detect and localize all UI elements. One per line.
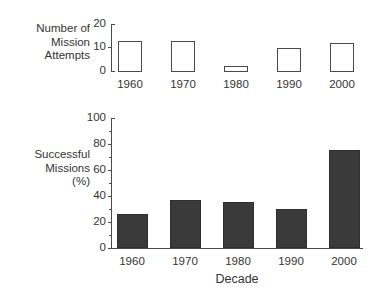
bottom-chart-x-axis-line bbox=[111, 248, 363, 249]
top-chart-bar-1970 bbox=[171, 41, 195, 72]
bottom-chart-xtick-label-1980: 1980 bbox=[213, 255, 263, 267]
bottom-chart-ytick-label-0: 0 bbox=[72, 242, 106, 254]
bottom-chart-ytick-label-20: 20 bbox=[72, 216, 106, 228]
bottom-chart-bar-1980 bbox=[223, 202, 254, 248]
bottom-chart-ytick-label-60: 60 bbox=[72, 164, 106, 176]
top-chart-bar-2000 bbox=[330, 43, 354, 72]
bottom-chart-xtick-label-1970: 1970 bbox=[160, 255, 210, 267]
figure-container: Number ofMissionAttempts 20 10 0 bbox=[0, 0, 373, 300]
bottom-chart-x-axis-title: Decade bbox=[111, 273, 363, 286]
top-chart-xtick-label-1980: 1980 bbox=[211, 78, 261, 90]
top-chart-bar-1980 bbox=[224, 66, 248, 72]
bottom-chart-tick-0 bbox=[108, 248, 112, 249]
top-chart-tick-0 bbox=[111, 71, 115, 72]
bottom-chart-tick-20 bbox=[108, 222, 112, 223]
bottom-chart-minor-tick-50 bbox=[109, 183, 112, 184]
top-chart-ytick-label-10: 10 bbox=[78, 41, 106, 53]
top-chart-plot-area: 20 10 0 1960 1970 1980 1990 2000 bbox=[0, 0, 373, 100]
bottom-chart-ytick-label-40: 40 bbox=[72, 190, 106, 202]
bottom-chart-tick-60 bbox=[108, 170, 112, 171]
bottom-chart-minor-tick-90 bbox=[109, 131, 112, 132]
top-chart-bar-1990 bbox=[277, 48, 301, 72]
bottom-chart-minor-tick-30 bbox=[109, 209, 112, 210]
bottom-chart-minor-tick-10 bbox=[109, 235, 112, 236]
bottom-chart-xtick-label-2000: 2000 bbox=[319, 255, 369, 267]
bottom-chart-bar-2000 bbox=[329, 150, 360, 248]
bottom-chart-bar-1990 bbox=[276, 209, 307, 248]
top-chart-ytick-label-0: 0 bbox=[78, 65, 106, 77]
bottom-chart-ytick-label-80: 80 bbox=[72, 138, 106, 150]
bottom-chart-tick-40 bbox=[108, 196, 112, 197]
bottom-chart-ytick-label-100: 100 bbox=[72, 112, 106, 124]
top-chart-ytick-label-20: 20 bbox=[78, 18, 106, 30]
bottom-chart-bar-1960 bbox=[117, 214, 148, 248]
top-chart-y-axis-line bbox=[111, 24, 112, 72]
chart-successful-missions: SuccessfulMissions(%) 100 80 60 bbox=[0, 100, 373, 300]
top-chart-xtick-label-1970: 1970 bbox=[158, 78, 208, 90]
bottom-chart-xtick-label-1990: 1990 bbox=[266, 255, 316, 267]
top-chart-tick-20 bbox=[111, 24, 115, 25]
top-chart-xtick-label-1990: 1990 bbox=[264, 78, 314, 90]
chart-mission-attempts: Number ofMissionAttempts 20 10 0 bbox=[0, 0, 373, 100]
top-chart-tick-10 bbox=[108, 47, 112, 48]
bottom-chart-xtick-label-1960: 1960 bbox=[107, 255, 157, 267]
bottom-chart-tick-80 bbox=[108, 144, 112, 145]
bottom-chart-plot-area: 100 80 60 40 20 0 1960 1970 1980 1990 20… bbox=[0, 100, 373, 300]
top-chart-bar-1960 bbox=[118, 41, 142, 72]
top-chart-xtick-label-2000: 2000 bbox=[317, 78, 367, 90]
bottom-chart-tick-100 bbox=[111, 118, 115, 119]
top-chart-xtick-label-1960: 1960 bbox=[105, 78, 155, 90]
bottom-chart-bar-1970 bbox=[170, 200, 201, 248]
bottom-chart-minor-tick-70 bbox=[109, 157, 112, 158]
